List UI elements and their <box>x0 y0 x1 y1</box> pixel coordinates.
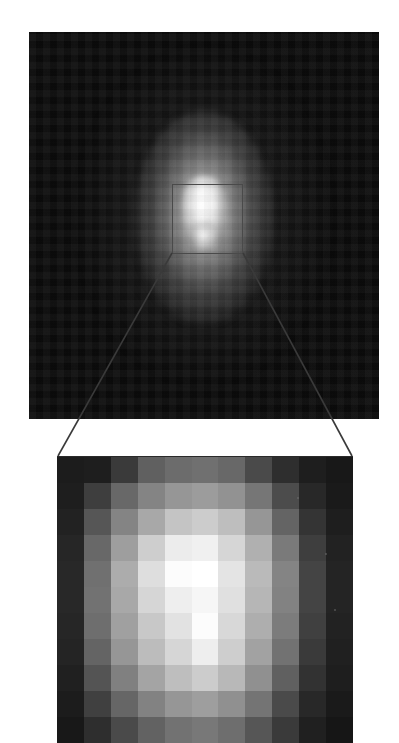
pixel-grid <box>57 457 353 743</box>
pixel-cell <box>138 639 165 665</box>
pixel-cell <box>326 509 353 535</box>
hot-pixel-speck <box>297 497 299 499</box>
pixel-cell <box>245 587 272 613</box>
pixel-cell <box>192 535 219 561</box>
pixel-cell <box>218 717 245 743</box>
pixel-cell <box>245 457 272 483</box>
pixel-cell <box>165 639 192 665</box>
hot-pixel-speck <box>334 609 336 611</box>
pixel-cell <box>218 509 245 535</box>
pixel-cell <box>111 457 138 483</box>
pixel-cell <box>57 561 84 587</box>
pixel-cell <box>326 561 353 587</box>
pixel-cell <box>299 665 326 691</box>
pixel-cell <box>218 535 245 561</box>
pixel-cell <box>245 509 272 535</box>
pixel-cell <box>111 665 138 691</box>
pixel-cell <box>299 613 326 639</box>
pixel-cell <box>138 457 165 483</box>
magnified-pixel-panel <box>57 456 353 743</box>
pixel-cell <box>299 535 326 561</box>
pixel-cell <box>299 639 326 665</box>
pixel-cell <box>138 561 165 587</box>
pixel-cell <box>192 587 219 613</box>
pixel-cell <box>84 457 111 483</box>
pixel-cell <box>218 639 245 665</box>
pixel-cell <box>192 613 219 639</box>
pixel-cell <box>57 717 84 743</box>
pixel-cell <box>111 483 138 509</box>
pixel-cell <box>84 483 111 509</box>
pixel-cell <box>218 613 245 639</box>
pixel-cell <box>57 535 84 561</box>
pixel-cell <box>272 483 299 509</box>
pixel-cell <box>299 483 326 509</box>
pixel-cell <box>326 717 353 743</box>
pixel-cell <box>138 717 165 743</box>
pixel-cell <box>57 483 84 509</box>
pixel-cell <box>299 691 326 717</box>
pixel-cell <box>165 587 192 613</box>
pixel-cell <box>57 691 84 717</box>
pixel-cell <box>165 483 192 509</box>
pixel-cell <box>218 457 245 483</box>
pixel-cell <box>57 665 84 691</box>
pixel-cell <box>111 639 138 665</box>
pixel-cell <box>299 717 326 743</box>
full-field-image-panel <box>29 32 379 419</box>
pixel-cell <box>218 483 245 509</box>
pixel-cell <box>111 587 138 613</box>
pixel-cell <box>111 691 138 717</box>
pixel-cell <box>111 509 138 535</box>
pixel-cell <box>84 691 111 717</box>
pixel-cell <box>138 665 165 691</box>
pixel-cell <box>84 613 111 639</box>
pixel-cell <box>218 587 245 613</box>
pixel-cell <box>218 665 245 691</box>
pixel-cell <box>192 483 219 509</box>
pixel-cell <box>111 561 138 587</box>
pixel-cell <box>192 665 219 691</box>
pixel-cell <box>84 561 111 587</box>
pixel-cell <box>57 509 84 535</box>
pixel-cell <box>165 665 192 691</box>
pixel-cell <box>84 639 111 665</box>
pixel-cell <box>57 639 84 665</box>
pixel-cell <box>192 639 219 665</box>
pixel-cell <box>272 535 299 561</box>
pixel-cell <box>245 535 272 561</box>
pixel-cell <box>326 639 353 665</box>
pixel-cell <box>245 639 272 665</box>
pixel-cell <box>299 587 326 613</box>
pixel-cell <box>299 561 326 587</box>
pixel-cell <box>272 613 299 639</box>
pixel-cell <box>165 613 192 639</box>
pixel-cell <box>165 535 192 561</box>
pixel-cell <box>245 665 272 691</box>
pixel-cell <box>326 535 353 561</box>
pixel-cell <box>84 665 111 691</box>
pixel-cell <box>218 691 245 717</box>
pixel-cell <box>272 457 299 483</box>
pixel-cell <box>165 717 192 743</box>
pixel-cell <box>245 613 272 639</box>
pixel-cell <box>326 613 353 639</box>
pixel-cell <box>165 691 192 717</box>
hot-pixel-speck <box>325 553 327 555</box>
pixel-cell <box>165 457 192 483</box>
pixel-cell <box>245 717 272 743</box>
pixel-cell <box>245 561 272 587</box>
pixel-cell <box>299 457 326 483</box>
pixel-cell <box>138 483 165 509</box>
pixel-cell <box>138 613 165 639</box>
pixel-cell <box>111 535 138 561</box>
pixel-cell <box>192 457 219 483</box>
pixel-cell <box>138 587 165 613</box>
pixel-cell <box>326 665 353 691</box>
pixel-cell <box>272 717 299 743</box>
inset-region-box <box>172 184 243 254</box>
pixel-cell <box>299 509 326 535</box>
pixel-cell <box>138 691 165 717</box>
pixel-cell <box>138 509 165 535</box>
